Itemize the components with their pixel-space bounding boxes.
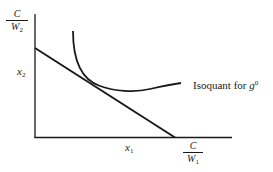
y-intercept-denominator: W2: [6, 21, 28, 34]
x-intercept-denominator: W1: [183, 153, 203, 166]
isoquant-label: Isoquant for g0: [193, 80, 258, 91]
x2-marker-label: x2: [17, 66, 25, 79]
y-axis-intercept-label: C W2: [6, 9, 28, 34]
x-intercept-numerator: C: [183, 141, 203, 153]
x-axis-intercept-label: C W1: [183, 141, 203, 166]
y-intercept-numerator: C: [6, 9, 28, 21]
x1-marker-label: x1: [125, 142, 133, 155]
isocost-line: [35, 48, 175, 138]
